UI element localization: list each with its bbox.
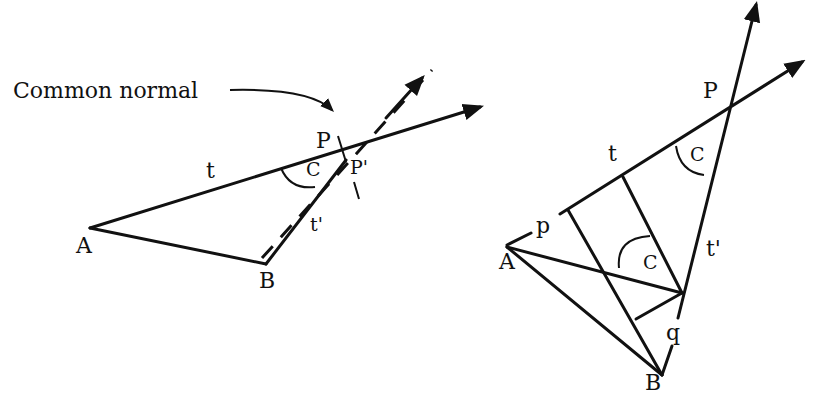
- line-t-right-main: [560, 62, 802, 214]
- label-b-left: B: [259, 270, 275, 292]
- label-p-small-right: p: [536, 215, 550, 237]
- right-figure: [507, 5, 802, 375]
- label-angle-c-top: C: [690, 145, 705, 164]
- label-angle-c-left: C: [306, 160, 321, 179]
- pointer-arrow: [230, 90, 332, 110]
- label-angle-c-mid: C: [643, 253, 658, 272]
- label-b-right: B: [645, 372, 661, 394]
- label-p-prime-left: P': [350, 158, 368, 177]
- segment-b-q: [662, 346, 672, 375]
- diagram-canvas: [0, 0, 813, 405]
- dashed-arrow-left: [386, 78, 422, 118]
- label-p-right: P: [703, 80, 718, 102]
- line-t-left: [90, 107, 480, 228]
- dashed-line-left: [262, 70, 432, 258]
- label-p-left: P: [316, 130, 331, 152]
- label-t-left: t: [206, 160, 215, 182]
- perp-t-to-tprime: [623, 177, 682, 293]
- line-ab-left: [90, 228, 266, 264]
- label-t-right: t: [608, 143, 617, 165]
- segment-q: [636, 293, 682, 319]
- label-t-prime-left: t': [310, 215, 323, 234]
- label-t-prime-right: t': [706, 238, 721, 260]
- label-common-normal: Common normal: [13, 80, 198, 102]
- label-q-right: q: [666, 322, 680, 344]
- line-t-right: [507, 233, 531, 245]
- label-a-right: A: [499, 251, 515, 273]
- label-a-left: A: [76, 235, 92, 257]
- perp-p-to-b: [568, 210, 662, 375]
- common-normal-dash: [354, 182, 359, 199]
